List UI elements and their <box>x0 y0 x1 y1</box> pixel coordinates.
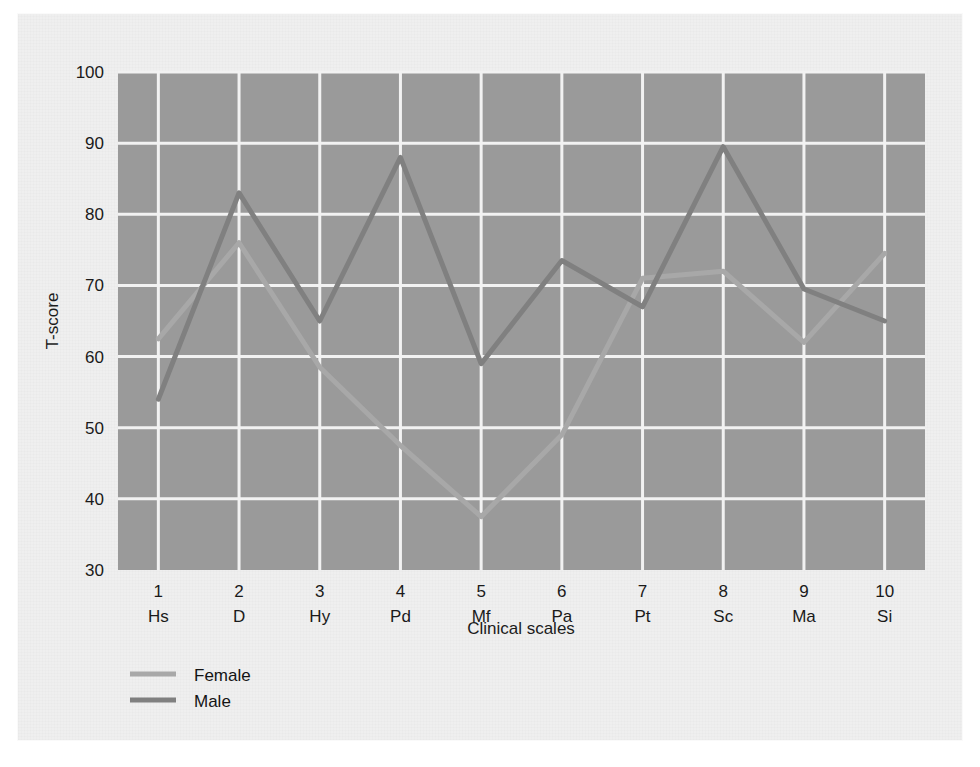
x-tick-abbreviation: Hy <box>309 607 330 626</box>
x-tick-number: 9 <box>799 582 808 601</box>
x-tick-abbreviation: Hs <box>148 607 169 626</box>
x-tick-number: 3 <box>315 582 324 601</box>
y-tick-label: 100 <box>76 63 104 82</box>
y-axis-tick-labels: 10090807060504030 <box>76 63 104 580</box>
line-chart: 10090807060504030 1Hs2D3Hy4Pd5Mf6Pa7Pt8S… <box>18 14 962 740</box>
x-tick-number: 7 <box>638 582 647 601</box>
x-tick-number: 8 <box>719 582 728 601</box>
y-tick-label: 60 <box>85 348 104 367</box>
y-axis-title: T-score <box>43 293 62 350</box>
x-tick-abbreviation: Si <box>877 607 892 626</box>
y-tick-label: 40 <box>85 490 104 509</box>
x-tick-abbreviation: Pd <box>390 607 411 626</box>
x-tick-number: 1 <box>154 582 163 601</box>
legend-label-female: Female <box>194 666 251 685</box>
x-tick-abbreviation: Pt <box>635 607 651 626</box>
scanned-page-panel: 10090807060504030 1Hs2D3Hy4Pd5Mf6Pa7Pt8S… <box>18 14 962 740</box>
legend-label-male: Male <box>194 692 231 711</box>
y-tick-label: 90 <box>85 134 104 153</box>
chart-legend: FemaleMale <box>130 666 251 711</box>
y-tick-label: 50 <box>85 419 104 438</box>
chart-canvas: 10090807060504030 1Hs2D3Hy4Pd5Mf6Pa7Pt8S… <box>18 14 962 740</box>
x-tick-number: 10 <box>875 582 894 601</box>
x-tick-number: 4 <box>396 582 405 601</box>
y-tick-label: 30 <box>85 561 104 580</box>
x-tick-number: 6 <box>557 582 566 601</box>
x-tick-abbreviation: D <box>233 607 245 626</box>
y-tick-label: 80 <box>85 205 104 224</box>
x-tick-abbreviation: Sc <box>713 607 733 626</box>
x-tick-number: 5 <box>476 582 485 601</box>
y-tick-label: 70 <box>85 276 104 295</box>
x-tick-number: 2 <box>234 582 243 601</box>
page-root: 10090807060504030 1Hs2D3Hy4Pd5Mf6Pa7Pt8S… <box>0 0 980 767</box>
x-tick-abbreviation: Ma <box>792 607 816 626</box>
x-axis-title: Clinical scales <box>467 619 575 638</box>
